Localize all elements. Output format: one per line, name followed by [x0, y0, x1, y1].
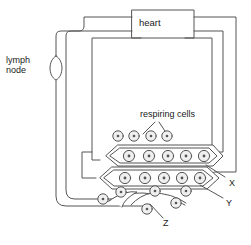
vessel-inner-left-to-upper — [92, 38, 141, 160]
cell-group-top-row — [113, 131, 172, 141]
leader-y — [200, 185, 223, 198]
label-y: Y — [226, 198, 232, 208]
lymph-node-shape — [50, 56, 62, 80]
label-x: X — [229, 178, 235, 188]
respiring-cells-label: respiring cells — [140, 109, 195, 119]
vessel-heart-right-inner — [194, 31, 223, 158]
lymph-node-label: lymph node — [6, 55, 30, 75]
vessel-heart-left-outer — [56, 17, 132, 56]
diagram-canvas: heart lymph node respiring cells X Y Z — [0, 0, 251, 245]
heart-label: heart — [139, 18, 161, 28]
vessel-inner-right — [185, 38, 212, 148]
diagram-svg — [0, 0, 251, 245]
label-z: Z — [163, 218, 169, 228]
vessel-left-to-lower — [82, 152, 96, 178]
